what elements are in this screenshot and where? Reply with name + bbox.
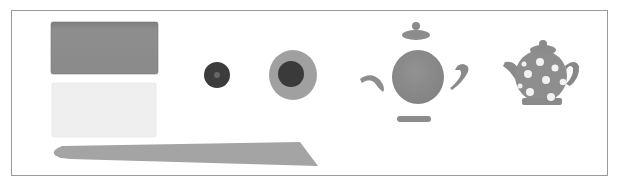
spout [360, 75, 384, 92]
lid-knob [412, 22, 420, 30]
base [397, 116, 431, 122]
lid [402, 30, 430, 40]
teapot-parts [360, 22, 468, 122]
modelling-tool [54, 142, 318, 166]
handle [450, 64, 468, 90]
assembled-teapot [503, 40, 579, 105]
grey-clay-block [51, 22, 158, 74]
disc-with-ring [269, 50, 317, 100]
small-dark-disc [204, 62, 230, 88]
illustration [0, 0, 622, 184]
teapot-body [392, 50, 444, 104]
white-clay-block [52, 83, 156, 137]
